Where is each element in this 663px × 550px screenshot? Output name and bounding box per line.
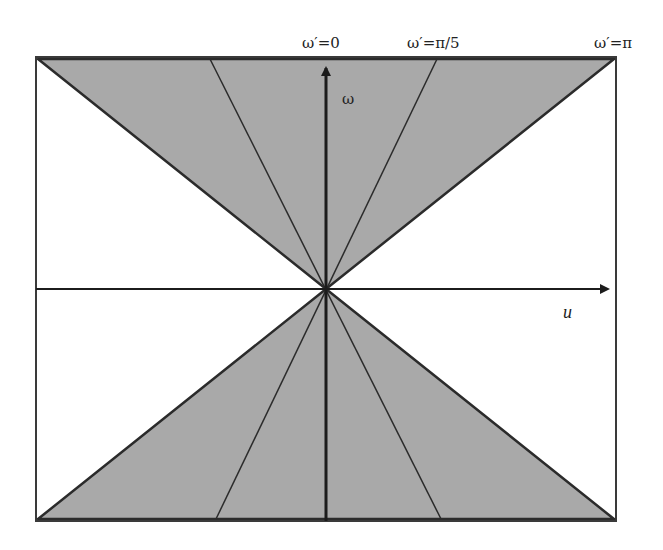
wedge-diagram: ω′=0 ω′=π/5 ω′=π ω u — [0, 0, 663, 550]
label-omega-prime-pi5: ω′=π/5 — [407, 34, 460, 52]
label-omega-prime-0: ω′=0 — [302, 34, 340, 52]
label-omega-prime-pi: ω′=π — [594, 34, 632, 52]
omega-axis-label: ω — [342, 90, 354, 108]
u-axis-label: u — [563, 302, 572, 322]
